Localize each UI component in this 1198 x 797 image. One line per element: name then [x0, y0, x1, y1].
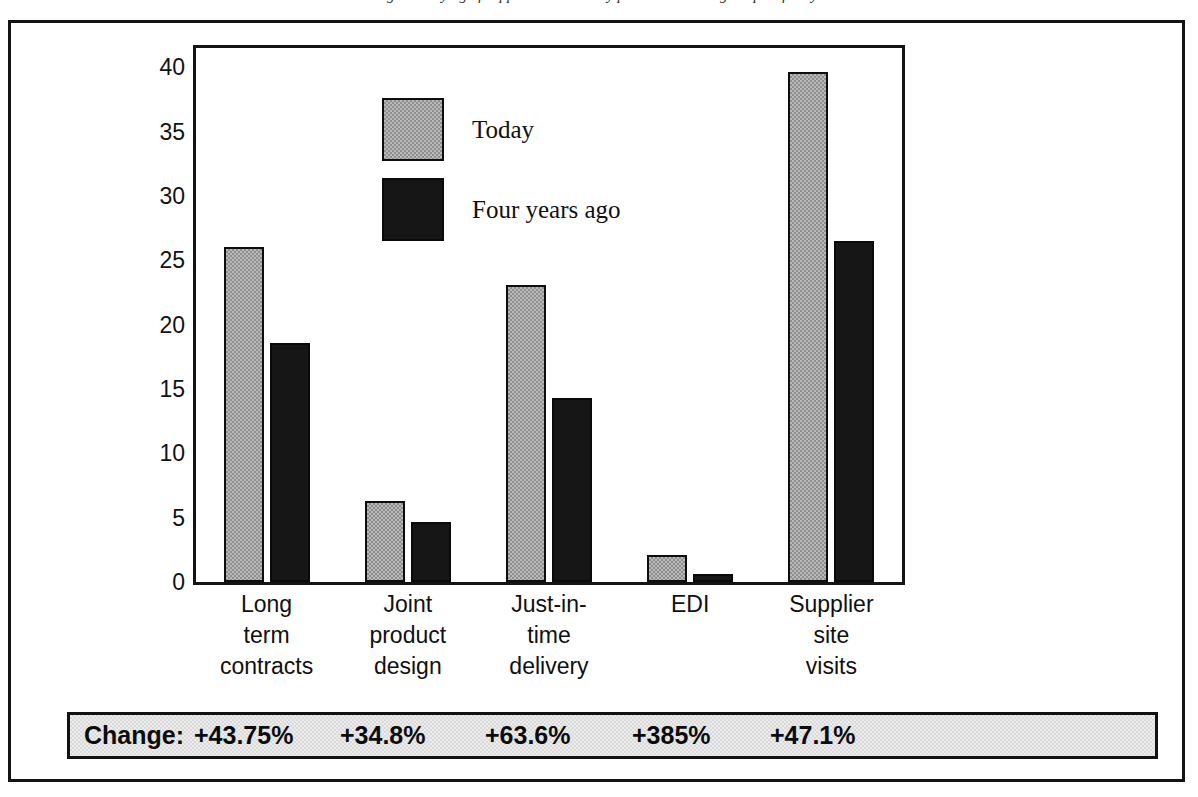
- change-value: +385%: [632, 715, 711, 756]
- x-category-line: design: [337, 651, 478, 682]
- x-category-line: site: [761, 620, 902, 651]
- figure-caption: Changes in buying of supplies and delive…: [0, 0, 1198, 4]
- bar-group: [761, 48, 902, 582]
- change-summary-box: Change: +43.75%+34.8%+63.6%+385%+47.1%: [67, 712, 1158, 759]
- change-value: +43.75%: [194, 715, 293, 756]
- x-category-label: Just-in-timedelivery: [478, 589, 619, 682]
- x-category-line: delivery: [478, 651, 619, 682]
- bar-today: [365, 501, 405, 582]
- bar-today: [788, 72, 828, 582]
- y-axis: 0510152025303540: [111, 45, 185, 585]
- legend-label-four-years-ago: Four years ago: [472, 196, 621, 224]
- x-category-line: product: [337, 620, 478, 651]
- y-tick-label: 5: [125, 507, 185, 530]
- x-category-line: time: [478, 620, 619, 651]
- bar-four-years-ago: [270, 343, 310, 582]
- bar-four-years-ago: [552, 398, 592, 582]
- y-tick-label: 15: [125, 378, 185, 401]
- plot-area: Today Four years ago: [193, 45, 905, 585]
- x-category-line: Long: [196, 589, 337, 620]
- change-value: +34.8%: [340, 715, 426, 756]
- x-category-line: visits: [761, 651, 902, 682]
- caption-strip: Changes in buying of supplies and delive…: [0, 0, 1198, 16]
- x-category-line: Just-in-: [478, 589, 619, 620]
- bar-group: [620, 48, 761, 582]
- x-axis-labels: LongtermcontractsJointproductdesignJust-…: [193, 589, 905, 694]
- figure-frame: 0510152025303540 Today Four years ago Lo…: [8, 20, 1185, 782]
- x-category-line: contracts: [196, 651, 337, 682]
- legend-swatch-four-years-ago: [382, 178, 444, 241]
- x-category-label: EDI: [620, 589, 761, 620]
- x-category-label: Suppliersitevisits: [761, 589, 902, 682]
- x-category-label: Jointproductdesign: [337, 589, 478, 682]
- y-tick-label: 40: [125, 56, 185, 79]
- change-value: +47.1%: [770, 715, 856, 756]
- y-tick-label: 10: [125, 442, 185, 465]
- legend-item-four-years-ago: Four years ago: [382, 178, 621, 241]
- change-label: Change:: [84, 715, 184, 756]
- bar-today: [647, 555, 687, 582]
- bar-today: [224, 247, 264, 582]
- y-tick-label: 35: [125, 121, 185, 144]
- legend-item-today: Today: [382, 98, 621, 161]
- x-category-line: term: [196, 620, 337, 651]
- bar-four-years-ago: [411, 522, 451, 582]
- x-category-line: Joint: [337, 589, 478, 620]
- legend-label-today: Today: [472, 116, 534, 144]
- chart-legend: Today Four years ago: [382, 98, 621, 258]
- bar-group: [196, 48, 337, 582]
- y-tick-label: 25: [125, 249, 185, 272]
- y-tick-label: 30: [125, 185, 185, 208]
- legend-swatch-today: [382, 98, 444, 161]
- y-tick-label: 20: [125, 314, 185, 337]
- bar-today: [506, 285, 546, 582]
- x-category-line: Supplier: [761, 589, 902, 620]
- bar-four-years-ago: [834, 241, 874, 582]
- bar-four-years-ago: [693, 574, 733, 582]
- change-value: +63.6%: [485, 715, 571, 756]
- y-tick-label: 0: [125, 571, 185, 594]
- x-category-line: EDI: [620, 589, 761, 620]
- x-category-label: Longtermcontracts: [196, 589, 337, 682]
